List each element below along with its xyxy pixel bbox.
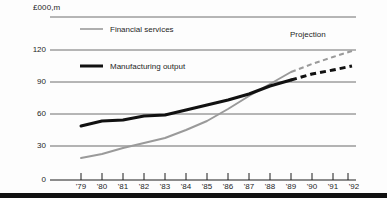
legend-label-financial-services: Financial services	[110, 25, 174, 34]
x-tick-label-90: '90	[301, 182, 323, 191]
x-tick-label-91: '91	[322, 182, 344, 191]
projection-annotation: Projection	[290, 30, 326, 39]
x-tick-label-88: '88	[259, 182, 281, 191]
x-tick-label-79: '79	[70, 182, 92, 191]
x-tick-label-86: '86	[217, 182, 239, 191]
chart-container: £000,m	[0, 0, 387, 198]
y-tick-label-120: 120	[20, 45, 46, 54]
y-tick-label-60: 60	[20, 109, 46, 118]
x-axis-ticks	[81, 173, 348, 180]
y-tick-label-90: 90	[20, 77, 46, 86]
financial-services-solid	[81, 72, 291, 158]
y-tick-label-30: 30	[20, 141, 46, 150]
bottom-rule-divider	[0, 193, 387, 198]
x-tick-label-81: '81	[112, 182, 134, 191]
series-manufacturing-output	[81, 66, 352, 126]
x-tick-label-80: '80	[91, 182, 113, 191]
y-tick-label-0: 0	[20, 175, 46, 184]
x-tick-label-87: '87	[238, 182, 260, 191]
legend-label-manufacturing-output: Manufacturing output	[110, 62, 185, 71]
x-tick-label-82: '82	[133, 182, 155, 191]
x-tick-label-85: '85	[196, 182, 218, 191]
x-tick-label-84: '84	[175, 182, 197, 191]
x-tick-label-92: '92	[343, 182, 365, 191]
manufacturing-output-solid	[81, 80, 291, 126]
chart-plot-area	[0, 0, 387, 198]
x-tick-label-89: '89	[280, 182, 302, 191]
x-tick-label-83: '83	[154, 182, 176, 191]
